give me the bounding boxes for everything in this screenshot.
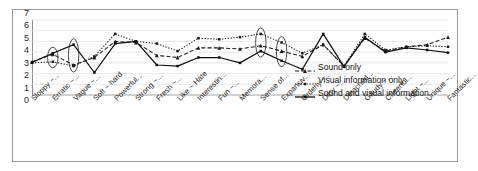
highlight-ellipse — [48, 47, 58, 68]
legend-item-2[interactable]: Visual information only — [294, 73, 454, 86]
y-tick-7: 7 — [24, 9, 29, 18]
data-point-marker — [218, 38, 221, 41]
y-tick-3: 3 — [24, 59, 29, 68]
x-axis-tick-labels: Sloppy ~...Erratic ~...Vague ~...Soft ~ … — [32, 97, 448, 147]
y-axis-tick-labels: 01234567 — [14, 14, 32, 101]
data-point-marker — [239, 36, 242, 39]
data-point-marker — [197, 56, 200, 59]
data-point-marker — [52, 52, 55, 55]
data-point-marker — [72, 65, 75, 68]
data-point-marker — [239, 62, 242, 65]
data-point-marker — [176, 65, 179, 68]
data-point-marker — [364, 33, 367, 36]
data-point-marker — [426, 44, 429, 47]
data-point-marker — [384, 51, 387, 54]
data-point-marker — [447, 46, 450, 49]
legend-swatch-icon — [294, 88, 316, 98]
highlight-ellipse — [256, 28, 266, 57]
legend-item-3[interactable]: Sound and visual information — [294, 86, 454, 99]
legend-label: Sound only — [318, 62, 361, 72]
data-point-marker — [280, 41, 283, 44]
data-point-marker — [447, 51, 450, 54]
data-point-marker — [197, 46, 201, 50]
y-tick-2: 2 — [24, 71, 29, 80]
legend-swatch-icon — [294, 75, 316, 85]
data-point-marker — [114, 42, 117, 45]
data-point-marker — [322, 33, 325, 36]
data-point-marker — [218, 56, 221, 59]
data-point-marker — [52, 61, 55, 64]
y-tick-1: 1 — [24, 84, 29, 93]
data-point-marker — [304, 82, 307, 85]
data-point-marker — [176, 50, 179, 53]
data-point-marker — [135, 40, 138, 43]
data-point-marker — [260, 50, 263, 53]
legend-swatch-icon — [294, 62, 316, 72]
y-tick-0: 0 — [24, 96, 29, 105]
data-point-marker — [260, 33, 263, 36]
data-point-marker — [301, 52, 304, 55]
data-point-marker — [156, 42, 159, 45]
legend-label: Visual information only — [318, 75, 404, 85]
data-point-marker — [322, 43, 325, 46]
data-point-marker — [114, 33, 117, 36]
data-point-marker — [280, 59, 283, 62]
data-point-marker — [72, 43, 75, 46]
y-tick-6: 6 — [24, 21, 29, 30]
data-point-marker — [156, 64, 159, 67]
data-point-marker — [31, 61, 34, 64]
data-point-marker — [197, 37, 200, 40]
data-point-marker — [304, 95, 307, 98]
y-tick-5: 5 — [24, 34, 29, 43]
data-point-marker — [93, 55, 96, 58]
data-point-marker — [364, 36, 367, 39]
legend-item-1[interactable]: Sound only — [294, 60, 454, 73]
chart-legend: Sound onlyVisual information onlySound a… — [294, 60, 454, 99]
data-point-marker — [405, 47, 408, 50]
y-tick-4: 4 — [24, 46, 29, 55]
data-point-marker — [426, 49, 429, 52]
legend-label: Sound and visual information — [318, 88, 429, 98]
